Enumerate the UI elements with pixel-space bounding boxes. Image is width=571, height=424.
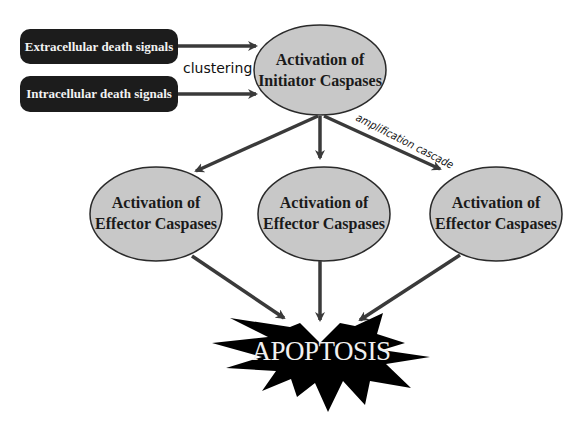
effector-1-line2: Effector Caspases xyxy=(86,213,226,234)
initiator-label: Activation of Initiator Caspases xyxy=(254,49,386,91)
extracellular-signals-label: Extracellular death signals xyxy=(25,39,174,55)
arrow-effector-3-to-apoptosis xyxy=(360,255,460,320)
amplification-cascade-label: amplification cascade xyxy=(354,111,456,172)
intracellular-signals-box: Intracellular death signals xyxy=(20,76,178,112)
effector-label-1: Activation of Effector Caspases xyxy=(86,192,226,234)
effector-3-line1: Activation of xyxy=(426,192,566,213)
extracellular-signals-box: Extracellular death signals xyxy=(20,29,178,64)
effector-1-line1: Activation of xyxy=(86,192,226,213)
effector-3-line2: Effector Caspases xyxy=(426,213,566,234)
apoptosis-label: APOPTOSIS xyxy=(230,336,412,367)
effector-2-line2: Effector Caspases xyxy=(254,213,394,234)
initiator-label-line1: Activation of xyxy=(254,49,386,70)
clustering-label: clustering xyxy=(183,60,252,76)
effector-label-3: Activation of Effector Caspases xyxy=(426,192,566,234)
effector-label-2: Activation of Effector Caspases xyxy=(254,192,394,234)
arrow-initiator-to-effector-1 xyxy=(196,116,318,171)
initiator-label-line2: Initiator Caspases xyxy=(254,70,386,91)
effector-2-line1: Activation of xyxy=(254,192,394,213)
arrow-effector-1-to-apoptosis xyxy=(192,256,284,318)
intracellular-signals-label: Intracellular death signals xyxy=(26,86,172,102)
